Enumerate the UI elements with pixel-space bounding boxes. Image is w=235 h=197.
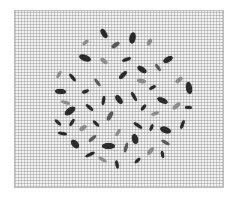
seed	[99, 27, 108, 38]
seed	[102, 143, 115, 149]
seed	[88, 134, 97, 142]
seed	[156, 95, 168, 104]
seed	[151, 110, 160, 116]
seed	[97, 155, 106, 162]
seed	[148, 123, 153, 131]
seed	[179, 119, 185, 128]
seed	[175, 76, 184, 84]
seed	[133, 121, 143, 129]
seed	[154, 63, 161, 71]
seed	[85, 103, 94, 111]
seed	[79, 124, 88, 132]
seed	[92, 119, 100, 127]
seed	[100, 57, 109, 65]
seed	[184, 105, 191, 109]
seed	[160, 138, 169, 145]
seed	[115, 128, 122, 136]
seed	[85, 151, 95, 158]
seed	[56, 70, 63, 78]
seed	[123, 142, 128, 152]
seed-cluster	[0, 0, 235, 197]
seed	[63, 105, 76, 117]
seed	[121, 56, 130, 62]
seed	[78, 53, 91, 63]
seed	[130, 91, 138, 101]
seed	[146, 146, 155, 155]
seed	[106, 111, 114, 122]
seed	[185, 82, 193, 95]
seed	[162, 54, 173, 63]
seed	[54, 118, 62, 126]
seed	[159, 125, 171, 134]
seed	[69, 118, 76, 126]
seed	[110, 41, 120, 49]
seed	[114, 93, 124, 104]
seed-photo	[0, 0, 235, 197]
seed	[57, 131, 66, 136]
seed	[101, 95, 106, 104]
seed	[81, 39, 88, 46]
seed	[140, 103, 147, 110]
seed	[136, 78, 146, 84]
seed	[54, 88, 65, 94]
seed	[160, 150, 164, 157]
seed	[68, 73, 76, 82]
seed	[60, 99, 69, 104]
seed	[136, 64, 147, 74]
seed	[118, 70, 128, 80]
seed	[131, 133, 139, 144]
seed	[133, 156, 140, 163]
seed	[115, 160, 119, 168]
seed	[146, 38, 153, 46]
seed	[69, 138, 80, 150]
seed	[128, 32, 136, 44]
seed	[171, 102, 180, 111]
seed	[81, 88, 89, 93]
seed	[148, 84, 156, 90]
seed	[93, 77, 101, 86]
